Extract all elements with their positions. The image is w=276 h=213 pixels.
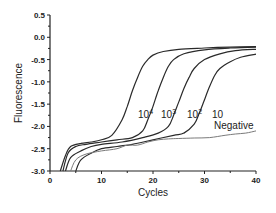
x-tick-label: 0 [48, 176, 53, 185]
y-tick-label: -1.5 [31, 100, 45, 109]
y-axis-title: Fluorescence [13, 63, 24, 123]
y-tick-label: -2.0 [31, 122, 45, 131]
x-tick-label: 40 [252, 176, 261, 185]
curve-negative [71, 131, 256, 171]
x-tick-label: 30 [200, 176, 209, 185]
y-tick-label: -3.0 [31, 167, 45, 176]
curve-10-4 [60, 47, 256, 171]
y-tick-label: 0.5 [34, 11, 46, 20]
y-tick-label: -0.5 [31, 56, 45, 65]
qpcr-amplification-chart: 0102030400.50.0-0.5-1.0-1.5-2.0-2.5-3.0 … [0, 0, 276, 213]
y-tick-label: -1.0 [31, 78, 45, 87]
label-10-3: 103 [161, 108, 176, 120]
x-tick-label: 20 [149, 176, 158, 185]
label-negative: Negative [214, 120, 254, 131]
label-10-2: 102 [187, 108, 202, 120]
x-tick-label: 10 [97, 176, 106, 185]
label-10: 10 [212, 109, 224, 120]
label-10-4: 104 [138, 108, 153, 120]
y-tick-label: 0.0 [34, 33, 46, 42]
x-axis-title: Cycles [138, 187, 168, 198]
amplification-curves [60, 47, 256, 171]
y-tick-label: -2.5 [31, 145, 45, 154]
